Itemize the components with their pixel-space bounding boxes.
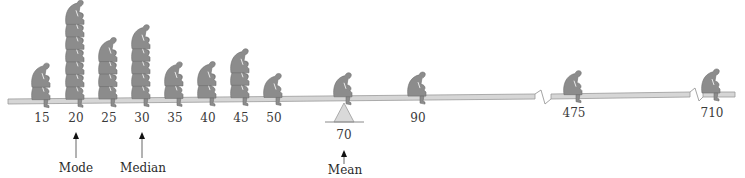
figure-stack-45: [231, 49, 249, 106]
figure-stack-30: [132, 25, 150, 107]
tick-label-30: 30: [134, 111, 149, 125]
tick-label-710: 710: [701, 106, 724, 120]
tick-label-50: 50: [266, 111, 281, 125]
seated-person-icon: [99, 38, 117, 62]
tick-label-70: 70: [336, 128, 351, 142]
median-label: Median: [120, 161, 166, 175]
tick-label-40: 40: [200, 111, 215, 125]
tick-label-20: 20: [68, 111, 83, 125]
mode-label: Mode: [59, 161, 93, 175]
figure-stacks: [32, 0, 720, 107]
seated-person-icon: [165, 62, 183, 86]
seesaw-diagram: 15202530354045507090475710 Mode Median M…: [0, 0, 745, 178]
mean-arrow-icon: [341, 150, 347, 164]
figure-stack-25: [99, 38, 117, 108]
seated-person-icon: [32, 63, 50, 87]
median-arrow-icon: [139, 132, 145, 158]
axis-break-icon: [535, 90, 551, 104]
tick-label-90: 90: [410, 111, 425, 125]
seated-person-icon: [66, 0, 84, 24]
tick-label-475: 475: [563, 106, 586, 120]
seated-person-icon: [231, 49, 249, 73]
fulcrum-triangle-icon: [325, 103, 364, 122]
tick-label-35: 35: [167, 111, 182, 125]
seesaw-artwork: [0, 0, 745, 178]
tick-label-25: 25: [101, 111, 116, 125]
mean-label: Mean: [328, 163, 362, 177]
tick-label-45: 45: [233, 111, 248, 125]
seated-person-icon: [132, 25, 150, 49]
figure-stack-20: [66, 0, 84, 107]
tick-label-15: 15: [34, 111, 49, 125]
mode-arrow-icon: [73, 132, 79, 158]
axis-break-icon: [690, 88, 703, 101]
seated-person-icon: [198, 62, 216, 86]
